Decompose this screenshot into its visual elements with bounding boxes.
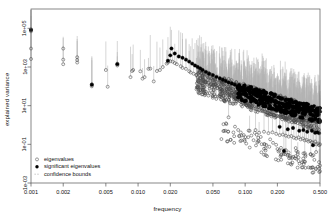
x-axis-ticks: 0.0010.0020.0050.0100.0200.0500.1000.200… xyxy=(24,183,327,195)
figure-container: 0.0010.0020.0050.0100.0200.0500.1000.200… xyxy=(0,0,335,218)
svg-text:0.005: 0.005 xyxy=(99,189,113,195)
svg-text:confidence bounds: confidence bounds xyxy=(44,171,91,177)
plot-legend: eigenvaluessignificant eigenvaluesconfid… xyxy=(34,156,100,177)
svg-text:1e-03: 1e-03 xyxy=(22,176,28,190)
svg-text:1e+05: 1e+05 xyxy=(22,20,28,36)
svg-text:0.010: 0.010 xyxy=(131,189,145,195)
svg-text:1e+03: 1e+03 xyxy=(22,59,28,75)
svg-text:1e+01: 1e+01 xyxy=(22,98,28,114)
svg-text:0.100: 0.100 xyxy=(238,189,252,195)
svg-text:0.050: 0.050 xyxy=(206,189,220,195)
svg-text:1e-01: 1e-01 xyxy=(22,137,28,151)
svg-text:0.020: 0.020 xyxy=(163,189,177,195)
svg-text:0.200: 0.200 xyxy=(270,189,284,195)
svg-text:eigenvalues: eigenvalues xyxy=(44,156,74,162)
x-axis-title: frequency xyxy=(0,205,335,212)
scatter-plot: 0.0010.0020.0050.0100.0200.0500.1000.200… xyxy=(0,0,335,218)
confidence-bounds-layer xyxy=(31,10,320,171)
svg-text:0.002: 0.002 xyxy=(56,189,70,195)
y-axis-ticks: 1e+051e+031e+011e-011e-03 xyxy=(22,20,32,190)
svg-text:significant eigenvalues: significant eigenvalues xyxy=(44,163,100,169)
svg-text:0.500: 0.500 xyxy=(313,189,327,195)
y-axis-title: explained variance xyxy=(3,58,10,142)
